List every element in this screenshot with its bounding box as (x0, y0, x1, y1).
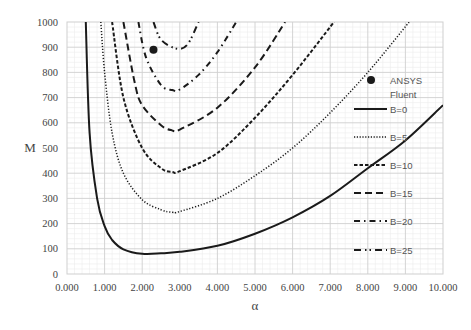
series-line-b-25 (154, 22, 199, 49)
legend-label-b5: B=5 (390, 132, 407, 143)
x-tick-label: 0.000 (55, 282, 79, 293)
legend-label-ansys: ANSYS (390, 75, 422, 86)
y-tick-label: 900 (42, 42, 58, 53)
y-tick-label: 1000 (37, 17, 58, 28)
legend-label-b15: B=15 (390, 188, 412, 199)
legend-label-fluent: Fluent (390, 89, 417, 100)
y-tick-label: 300 (42, 193, 58, 204)
x-tick-label: 3.000 (168, 282, 192, 293)
legend-label-b25: B=25 (390, 245, 412, 256)
x-tick-label: 5.000 (243, 282, 267, 293)
y-tick-label: 100 (42, 243, 58, 254)
series-line-b-15 (123, 22, 285, 132)
x-tick-label: 4.000 (206, 282, 230, 293)
y-tick-label: 400 (42, 168, 58, 179)
x-axis-ticks: 0.0001.0002.0003.0004.0005.0006.0007.000… (55, 282, 457, 293)
y-axis-ticks: 01002003004005006007008009001000 (37, 17, 58, 280)
legend-label-b10: B=10 (390, 160, 412, 171)
x-tick-label: 10.000 (429, 282, 458, 293)
x-tick-label: 7.000 (318, 282, 342, 293)
y-tick-label: 800 (42, 67, 58, 78)
y-tick-label: 700 (42, 92, 58, 103)
x-tick-label: 1.000 (93, 282, 117, 293)
x-axis-title: α (252, 298, 259, 313)
x-tick-label: 6.000 (281, 282, 305, 293)
y-tick-label: 200 (42, 218, 58, 229)
y-tick-label: 0 (53, 269, 58, 280)
y-tick-label: 500 (42, 143, 58, 154)
data-point-ansys-fluent (149, 46, 157, 54)
y-axis-title: M (24, 140, 36, 155)
x-tick-label: 2.000 (130, 282, 154, 293)
major-grid (67, 22, 443, 274)
y-tick-label: 600 (42, 117, 58, 128)
x-tick-label: 8.000 (356, 282, 380, 293)
legend-label-b0: B=0 (390, 104, 407, 115)
x-tick-label: 9.000 (394, 282, 418, 293)
chart-canvas: 01002003004005006007008009001000 0.0001.… (0, 0, 471, 330)
legend-marker-ansys (367, 76, 375, 84)
legend-label-b20: B=20 (390, 216, 412, 227)
